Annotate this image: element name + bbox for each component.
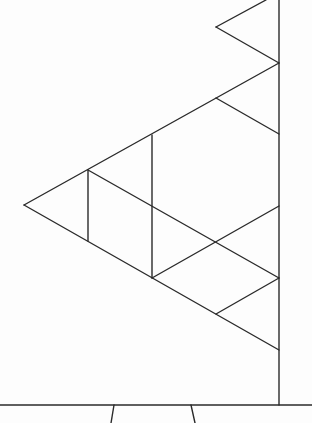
lower-right-diagonal bbox=[216, 278, 279, 314]
diagram-segments bbox=[0, 0, 312, 423]
long-inner-diagonal bbox=[88, 170, 279, 278]
diagram-canvas bbox=[0, 0, 312, 423]
top-triangle-upper-edge bbox=[216, 0, 266, 27]
trapezoid-left-leg bbox=[111, 405, 114, 423]
upper-right-diagonal bbox=[216, 98, 279, 134]
top-triangle-lower-edge bbox=[216, 27, 279, 63]
geometric-line-diagram bbox=[0, 0, 312, 423]
trapezoid-right-leg bbox=[191, 405, 195, 423]
